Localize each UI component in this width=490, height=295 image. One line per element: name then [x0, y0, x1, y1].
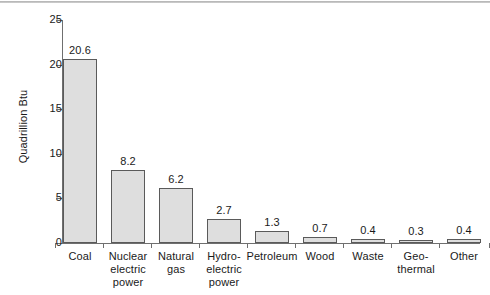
- bar: [351, 239, 385, 243]
- x-axis-category-label-line: Petroleum: [246, 250, 298, 263]
- x-axis-category-label: Other: [438, 250, 490, 263]
- x-axis-category-label: Nuclearelectricpower: [102, 250, 154, 289]
- bar: [399, 240, 433, 243]
- x-axis-tick-mark: [199, 243, 200, 248]
- x-axis-category-label-line: Natural: [150, 250, 202, 263]
- bar-value-label: 1.3: [248, 216, 296, 229]
- x-axis-category-label-line: Coal: [54, 250, 106, 263]
- bar: [207, 219, 241, 243]
- bar-value-label: 20.6: [56, 44, 104, 57]
- x-axis-category-label-line: thermal: [390, 263, 442, 276]
- x-axis-category-label-line: Nuclear: [102, 250, 154, 263]
- y-axis-tick: 5: [0, 198, 62, 199]
- bar-value-label: 0.7: [296, 222, 344, 235]
- bar: [255, 231, 289, 243]
- x-axis-category-label-line: Geo-: [390, 250, 442, 263]
- x-axis-category-label-line: Hydro-: [198, 250, 250, 263]
- x-axis-category-label-line: Waste: [342, 250, 394, 263]
- x-axis-category-label-line: power: [198, 276, 250, 289]
- x-axis-category-label: Wood: [294, 250, 346, 263]
- bar-chart: Quadrillion Btu 0510152025 20.68.26.22.7…: [0, 0, 490, 295]
- x-axis-tick-mark: [55, 243, 56, 248]
- bar: [159, 188, 193, 243]
- x-axis-tick-mark: [391, 243, 392, 248]
- y-axis-tick: 15: [0, 109, 62, 110]
- y-axis-tick-label: 10: [16, 147, 62, 160]
- x-axis-category-label-line: Wood: [294, 250, 346, 263]
- x-axis-category-label: Naturalgas: [150, 250, 202, 276]
- y-axis-tick-label: 5: [16, 191, 62, 204]
- y-axis-title: Quadrillion Btu: [17, 62, 30, 192]
- x-axis-category-label-line: gas: [150, 263, 202, 276]
- x-axis-category-label: Coal: [54, 250, 106, 263]
- x-axis-category-label: Geo-thermal: [390, 250, 442, 276]
- y-axis-tick: 20: [0, 65, 62, 66]
- bar-value-label: 8.2: [104, 155, 152, 168]
- x-axis-tick-mark: [343, 243, 344, 248]
- bar-value-label: 2.7: [200, 204, 248, 217]
- bar-value-label: 0.4: [440, 224, 488, 237]
- x-axis-category-label: Petroleum: [246, 250, 298, 263]
- bar-value-label: 0.3: [392, 225, 440, 238]
- x-axis-tick-mark: [295, 243, 296, 248]
- x-axis-category-label-line: power: [102, 276, 154, 289]
- x-axis-tick-mark: [247, 243, 248, 248]
- x-axis-category-label-line: electric: [102, 263, 154, 276]
- bar: [111, 170, 145, 243]
- x-axis-category-label: Waste: [342, 250, 394, 263]
- y-axis-tick: 10: [0, 154, 62, 155]
- bar: [63, 59, 97, 243]
- x-axis-tick-mark: [151, 243, 152, 248]
- bar: [447, 239, 481, 243]
- x-axis-line: [62, 243, 480, 244]
- bar-value-label: 0.4: [344, 224, 392, 237]
- y-axis-tick-label: 25: [16, 13, 62, 26]
- bar: [303, 237, 337, 243]
- y-axis-tick-label: 20: [16, 58, 62, 71]
- y-axis-tick: 0: [0, 243, 62, 244]
- y-axis-tick-label: 15: [16, 102, 62, 115]
- x-axis-tick-mark: [103, 243, 104, 248]
- x-axis-category-label-line: electric: [198, 263, 250, 276]
- x-axis-tick-mark: [439, 243, 440, 248]
- x-axis-category-label: Hydro-electricpower: [198, 250, 250, 289]
- y-axis-tick: 25: [0, 20, 62, 21]
- x-axis-category-label-line: Other: [438, 250, 490, 263]
- bar-value-label: 6.2: [152, 173, 200, 186]
